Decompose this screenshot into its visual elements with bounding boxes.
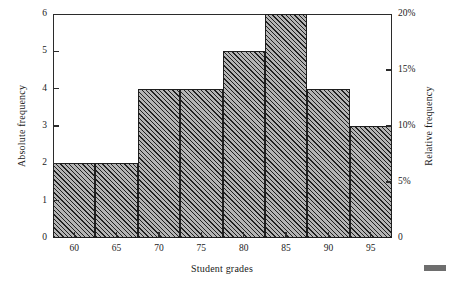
x-axis-tick-label: 65 [112,244,122,254]
y-axis-right-tick-label: 15% [398,65,415,75]
y-axis-right-tick [386,125,392,126]
y-axis-right-tick [386,69,392,70]
x-axis-tick-label: 90 [324,244,334,254]
histogram-bar [95,163,137,238]
y-axis-left-tick [53,88,59,89]
y-axis-right-tick [386,181,392,182]
y-axis-left-tick-label: 1 [31,196,47,206]
x-axis-tick [328,232,329,238]
histogram-bar [265,14,307,238]
x-axis-tick [158,232,159,238]
histogram-bar [223,51,265,238]
histogram-bar [180,89,222,238]
x-axis-tick [201,232,202,238]
x-axis-tick-label: 60 [69,244,79,254]
histogram-bar [53,163,95,238]
x-axis-tick [285,232,286,238]
y-axis-left-title: Absolute frequency [16,85,27,167]
y-axis-left-tick-label: 3 [31,121,47,131]
y-axis-left-tick [53,163,59,164]
y-axis-left-tick [53,51,59,52]
bars-layer [53,14,392,238]
y-axis-right-title: Relative frequency [423,86,434,165]
x-axis-tick-label: 75 [197,244,207,254]
histogram-bar [307,89,349,238]
y-axis-left-tick [53,125,59,126]
y-axis-left-tick [53,200,59,201]
scan-artifact-mark [424,265,446,271]
x-axis-title: Student grades [191,263,253,274]
y-axis-right-tick-label: 0 [398,233,403,243]
histogram-bar [138,89,180,238]
y-axis-right-tick-label: 5% [398,177,411,187]
x-axis-tick [243,232,244,238]
x-axis-tick [74,232,75,238]
y-axis-left-tick-label: 4 [31,84,47,94]
x-axis-tick-label: 70 [154,244,164,254]
y-axis-left-tick-label: 5 [31,47,47,57]
x-axis-tick-label: 85 [281,244,291,254]
y-axis-left-tick-label: 6 [31,9,47,19]
x-axis-tick [370,232,371,238]
x-axis-tick-label: 80 [239,244,249,254]
y-axis-left-tick-label: 0 [31,233,47,243]
y-axis-right-tick-label: 10% [398,121,415,131]
histogram-figure: 6065707580859095012345605%10%15%20% Stud… [0,0,452,286]
y-axis-right-tick-label: 20% [398,9,415,19]
x-axis-tick-label: 95 [366,244,376,254]
y-axis-left-tick-label: 2 [31,159,47,169]
x-axis-tick [116,232,117,238]
